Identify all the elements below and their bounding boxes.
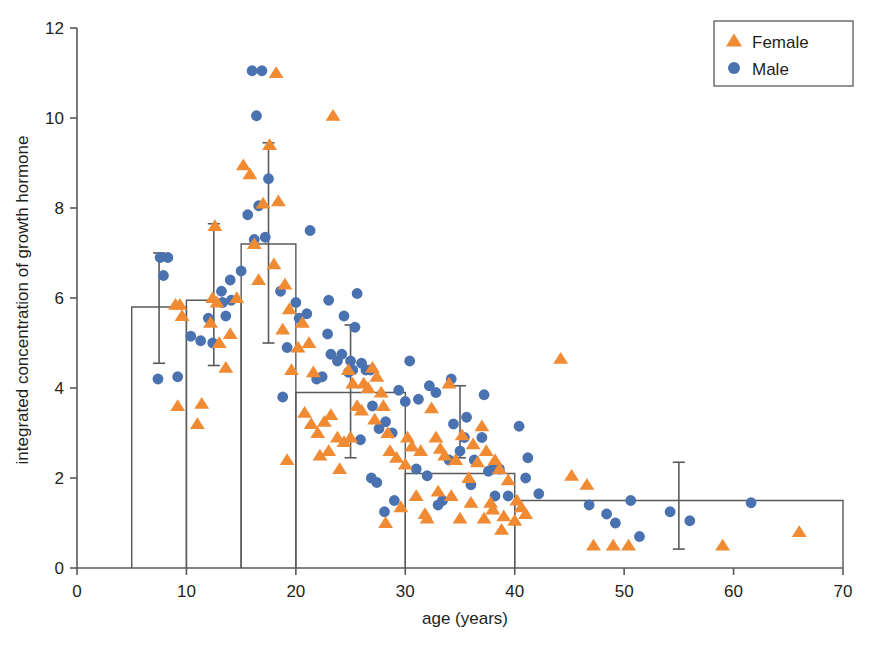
data-point-female bbox=[170, 399, 185, 411]
data-point-female bbox=[553, 352, 568, 364]
data-point-female bbox=[332, 462, 347, 474]
data-point-female bbox=[343, 431, 358, 443]
data-point-male bbox=[290, 297, 301, 308]
data-point-male bbox=[185, 331, 196, 342]
data-point-male bbox=[220, 311, 231, 322]
data-point-male bbox=[413, 394, 424, 405]
data-point-male bbox=[260, 232, 271, 243]
data-point-female bbox=[280, 453, 295, 465]
data-point-male bbox=[625, 495, 636, 506]
data-point-female bbox=[376, 399, 391, 411]
data-point-male bbox=[216, 286, 227, 297]
data-point-male bbox=[584, 500, 595, 511]
y-tick-label: 2 bbox=[55, 469, 64, 488]
x-tick-label: 10 bbox=[177, 582, 196, 601]
legend-label: Male bbox=[752, 60, 789, 79]
data-point-male bbox=[153, 374, 164, 385]
data-point-female bbox=[194, 397, 209, 409]
x-tick-label: 0 bbox=[72, 582, 81, 601]
data-point-male bbox=[411, 464, 422, 475]
data-point-female bbox=[453, 512, 468, 524]
chart-canvas: 010203040506070024681012 FemaleMale age … bbox=[0, 0, 870, 647]
tick-labels-layer: 010203040506070024681012 bbox=[45, 19, 852, 601]
data-point-male bbox=[476, 432, 487, 443]
legend-marker-circle bbox=[728, 62, 740, 74]
data-point-male bbox=[162, 252, 173, 263]
data-point-male bbox=[433, 500, 444, 511]
x-tick-label: 40 bbox=[505, 582, 524, 601]
data-point-male bbox=[305, 225, 316, 236]
data-point-female bbox=[251, 273, 266, 285]
data-point-female bbox=[424, 401, 439, 413]
data-point-female bbox=[284, 363, 299, 375]
data-point-male bbox=[345, 356, 356, 367]
data-point-female bbox=[218, 361, 233, 373]
y-tick-label: 4 bbox=[55, 379, 64, 398]
x-tick-label: 30 bbox=[396, 582, 415, 601]
data-point-male bbox=[195, 335, 206, 346]
data-point-male bbox=[400, 396, 411, 407]
legend-label: Female bbox=[752, 33, 809, 52]
data-point-male bbox=[380, 416, 391, 427]
data-point-male bbox=[533, 488, 544, 499]
error-bar bbox=[263, 143, 275, 343]
data-point-male bbox=[322, 329, 333, 340]
data-point-female bbox=[304, 417, 319, 429]
data-point-male bbox=[247, 65, 258, 76]
y-tick-label: 10 bbox=[45, 109, 64, 128]
data-point-female bbox=[306, 365, 321, 377]
data-point-female bbox=[431, 485, 446, 497]
data-point-male bbox=[350, 322, 361, 333]
data-point-female bbox=[464, 496, 479, 508]
data-point-female bbox=[409, 489, 424, 501]
data-point-male bbox=[520, 473, 531, 484]
y-tick-label: 12 bbox=[45, 19, 64, 38]
data-point-male bbox=[448, 419, 459, 430]
error-bars-layer bbox=[153, 143, 685, 549]
data-point-female bbox=[400, 431, 415, 443]
data-point-male bbox=[263, 173, 274, 184]
data-point-female bbox=[323, 408, 338, 420]
data-point-male bbox=[367, 401, 378, 412]
data-point-female bbox=[579, 478, 594, 490]
data-point-male bbox=[242, 209, 253, 220]
data-point-female bbox=[496, 509, 511, 521]
data-point-female bbox=[378, 516, 393, 528]
data-point-male bbox=[336, 349, 347, 360]
data-point-female bbox=[494, 523, 509, 535]
data-point-female bbox=[474, 419, 489, 431]
data-point-male bbox=[422, 470, 433, 481]
data-point-male bbox=[282, 342, 293, 353]
data-point-female bbox=[564, 469, 579, 481]
data-point-male bbox=[172, 371, 183, 382]
data-point-male bbox=[225, 275, 236, 286]
data-point-female bbox=[479, 444, 494, 456]
data-point-female bbox=[621, 539, 636, 551]
data-point-male bbox=[522, 452, 533, 463]
data-point-female bbox=[792, 525, 807, 537]
data-points-layer bbox=[153, 65, 807, 550]
data-point-female bbox=[321, 444, 336, 456]
data-point-female bbox=[175, 309, 190, 321]
data-point-female bbox=[271, 194, 286, 206]
data-point-male bbox=[339, 311, 350, 322]
data-point-female bbox=[428, 431, 443, 443]
data-point-female bbox=[501, 473, 516, 485]
data-point-female bbox=[190, 417, 205, 429]
data-point-female bbox=[277, 278, 292, 290]
data-point-male bbox=[610, 518, 621, 529]
error-bar bbox=[153, 253, 165, 363]
data-point-female bbox=[374, 386, 389, 398]
data-point-female bbox=[367, 413, 382, 425]
data-point-female bbox=[262, 138, 277, 150]
data-point-male bbox=[352, 288, 363, 299]
data-point-female bbox=[326, 109, 341, 121]
y-tick-label: 6 bbox=[55, 289, 64, 308]
data-point-male bbox=[634, 531, 645, 542]
data-point-male bbox=[431, 387, 442, 398]
data-point-female bbox=[297, 406, 312, 418]
data-point-male bbox=[277, 392, 288, 403]
x-tick-label: 50 bbox=[615, 582, 634, 601]
data-point-male bbox=[251, 110, 262, 121]
data-point-male bbox=[236, 266, 247, 277]
